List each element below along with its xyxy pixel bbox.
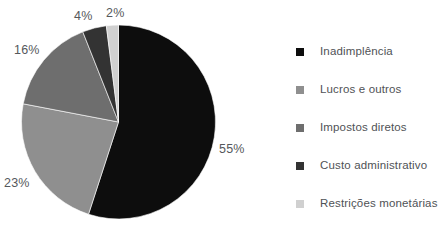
slice-value-label-inadimplencia: 55% — [219, 143, 245, 156]
legend-item-impostos-diretos: Impostos diretos — [296, 109, 443, 147]
legend-swatch-icon — [296, 200, 304, 208]
legend-item-label: Custo administrativo — [320, 160, 427, 172]
legend-item-label: Lucros e outros — [320, 84, 402, 96]
legend-swatch-icon — [296, 86, 304, 94]
legend-item-custo-administrativo: Custo administrativo — [296, 147, 443, 185]
slice-value-label-impostos-diretos: 16% — [14, 44, 40, 57]
legend-item-restricoes-monetarias: Restrições monetárias — [296, 185, 443, 223]
pie-svg — [0, 0, 280, 238]
legend-swatch-icon — [296, 162, 304, 170]
slice-value-label-lucros-e-outros: 23% — [4, 177, 30, 190]
legend-item-lucros-e-outros: Lucros e outros — [296, 71, 443, 109]
slice-value-label-restricoes-monetarias: 2% — [106, 7, 124, 20]
pie-slice-group — [22, 25, 216, 219]
legend-swatch-icon — [296, 124, 304, 132]
slice-value-label-custo-administrativo: 4% — [74, 10, 92, 23]
legend-swatch-icon — [296, 48, 304, 56]
pie-plot-area: 55% 23% 16% 4% 2% — [0, 0, 280, 238]
legend-item-label: Restrições monetárias — [320, 198, 438, 210]
legend-item-label: Inadimplência — [320, 46, 393, 58]
pie-chart-figure: 55% 23% 16% 4% 2% Inadimplência Lucros e… — [0, 0, 443, 238]
legend-item-inadimplencia: Inadimplência — [296, 33, 443, 71]
legend-item-label: Impostos diretos — [320, 122, 407, 134]
chart-legend: Inadimplência Lucros e outros Impostos d… — [296, 33, 443, 223]
